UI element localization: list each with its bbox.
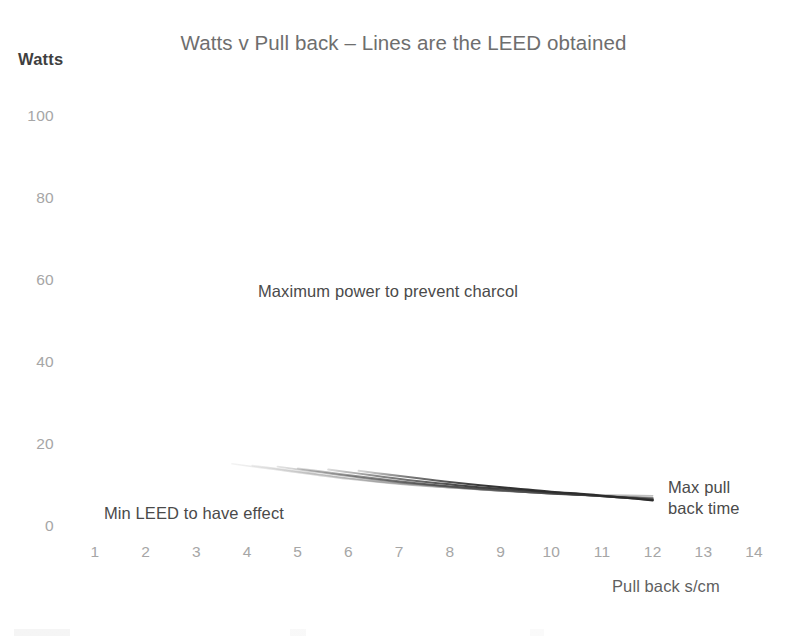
x-tick-9: 9 (484, 543, 518, 561)
x-tick-11: 11 (585, 543, 619, 561)
annotation-max-pull-back-time: Max pull back time (668, 477, 740, 519)
series-line-6 (359, 471, 653, 501)
page-bottom-artifact (14, 629, 554, 636)
series-plot-area (0, 0, 807, 636)
annotation-maximum-power: Maximum power to prevent charcol (258, 281, 518, 302)
y-tick-0: 0 (0, 517, 54, 535)
x-tick-14: 14 (737, 543, 771, 561)
x-axis-title: Pull back s/cm (612, 577, 720, 596)
x-tick-6: 6 (332, 543, 366, 561)
chart-title: Watts v Pull back – Lines are the LEED o… (0, 30, 807, 56)
x-tick-13: 13 (686, 543, 720, 561)
x-tick-8: 8 (433, 543, 467, 561)
series-line-5 (328, 470, 652, 500)
y-tick-80: 80 (0, 189, 54, 207)
annotation-min-leed: Min LEED to have effect (104, 503, 284, 524)
x-tick-5: 5 (281, 543, 315, 561)
series-line-2 (252, 466, 653, 498)
x-tick-12: 12 (636, 543, 670, 561)
series-line-4 (298, 468, 653, 499)
x-tick-2: 2 (129, 543, 163, 561)
series-line-3 (278, 467, 653, 499)
y-axis-title: Watts (18, 50, 63, 69)
y-tick-40: 40 (0, 353, 54, 371)
x-tick-1: 1 (78, 543, 112, 561)
y-tick-100: 100 (0, 107, 54, 125)
y-tick-20: 20 (0, 435, 54, 453)
x-tick-7: 7 (382, 543, 416, 561)
x-tick-3: 3 (179, 543, 213, 561)
y-tick-60: 60 (0, 271, 54, 289)
chart-canvas: Watts v Pull back – Lines are the LEED o… (0, 0, 807, 636)
x-tick-4: 4 (230, 543, 264, 561)
series-line-1 (232, 464, 653, 496)
x-tick-10: 10 (534, 543, 568, 561)
